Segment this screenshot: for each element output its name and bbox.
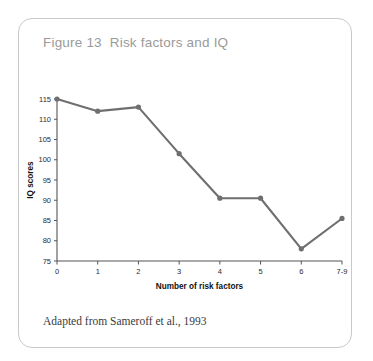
data-point <box>54 96 59 101</box>
data-point <box>258 196 263 201</box>
y-tick-label: 85 <box>43 216 51 225</box>
x-tick-label: 5 <box>258 267 262 276</box>
x-tick-label: 4 <box>218 267 222 276</box>
data-line <box>57 99 342 249</box>
data-point <box>299 246 304 251</box>
line-chart: 7580859095100105110115 01234567-9 Number… <box>19 19 353 349</box>
x-axis-title: Number of risk factors <box>156 282 244 291</box>
data-point <box>136 105 141 110</box>
x-axis: 01234567-9 <box>55 261 348 276</box>
data-point <box>177 151 182 156</box>
figure-card: Figure 13 Risk factors and IQ 7580859095… <box>18 18 352 348</box>
y-axis: 7580859095100105110115 <box>38 95 57 266</box>
y-axis-title: IQ scores <box>26 161 35 199</box>
y-tick-label: 105 <box>38 135 51 144</box>
source-caption: Adapted from Sameroff et al., 1993 <box>43 315 207 327</box>
y-tick-label: 80 <box>43 236 51 245</box>
data-point <box>217 196 222 201</box>
x-tick-label: 0 <box>55 267 59 276</box>
y-tick-label: 75 <box>43 257 51 266</box>
x-tick-label: 6 <box>299 267 303 276</box>
y-tick-label: 90 <box>43 196 51 205</box>
y-tick-label: 95 <box>43 176 51 185</box>
data-point <box>339 216 344 221</box>
data-series <box>54 96 344 251</box>
x-tick-label: 1 <box>96 267 100 276</box>
y-tick-label: 115 <box>39 95 51 104</box>
chart-canvas: 7580859095100105110115 01234567-9 Number… <box>19 19 353 349</box>
x-tick-label: 7-9 <box>337 267 348 276</box>
y-tick-label: 110 <box>39 115 51 124</box>
data-point <box>95 109 100 114</box>
x-tick-label: 2 <box>136 267 140 276</box>
y-tick-label: 100 <box>38 155 51 164</box>
x-tick-label: 3 <box>177 267 181 276</box>
